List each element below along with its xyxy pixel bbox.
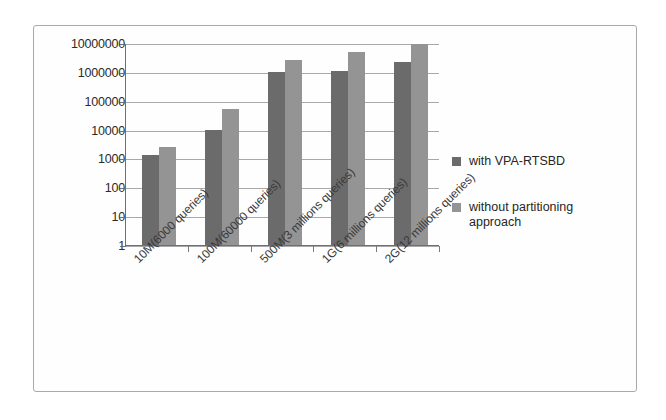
legend-swatch-icon [452,157,461,166]
legend-item: with VPA-RTSBD [452,154,632,170]
figure-frame: 100000001000000100000100001000100101 10M… [33,25,637,392]
legend-item-label: with VPA-RTSBD [469,154,565,170]
y-axis-tick-label: 1000 [39,153,125,166]
y-axis-tick-label: 10000000 [39,38,125,51]
x-axis-tick-labels: 10M(6000 queries)100M(60000 queries)500M… [125,248,455,378]
y-axis-tick-label: 100000 [39,95,125,108]
y-axis-tick-label: 100 [39,182,125,195]
legend-swatch-icon [452,203,461,212]
y-axis-tick-label: 10 [39,211,125,224]
legend-item-label: without partitioning approach [469,200,624,231]
bar [394,62,411,245]
bar [268,72,285,245]
y-tick-mark [120,246,126,247]
bar-chart: 100000001000000100000100001000100101 10M… [34,26,638,393]
legend-item: without partitioning approach [452,200,632,231]
y-axis-tick-label: 1000000 [39,67,125,80]
bar [331,71,348,245]
y-axis-tick-label: 10000 [39,124,125,137]
y-axis-tick-label: 1 [39,240,125,253]
y-axis-tick-labels: 100000001000000100000100001000100101 [37,26,125,393]
bar [205,130,222,245]
chart-legend: with VPA-RTSBD without partitioning appr… [452,154,632,261]
